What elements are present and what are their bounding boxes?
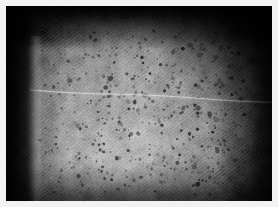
photograph-canvas-container xyxy=(6,6,272,201)
photo-frame: grayscale macro photograph of skin surfa… xyxy=(0,0,278,207)
photograph-image xyxy=(6,6,272,201)
image-subject-label: grayscale macro photograph of skin surfa… xyxy=(0,0,1,1)
